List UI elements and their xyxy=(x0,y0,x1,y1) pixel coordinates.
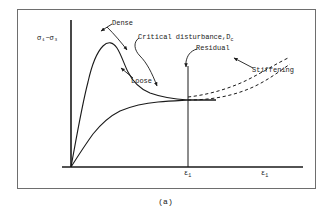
figure-container: σ₁−σ₃ Dense Critical disturbance,Dc Resi… xyxy=(0,0,331,218)
x-axis-subscript: 1 xyxy=(265,173,268,179)
figure-caption: (a) xyxy=(0,197,331,206)
x-tick-label-critical-strain: ε1 xyxy=(184,170,191,179)
y-axis-label: σ₁−σ₃ xyxy=(37,35,58,42)
annotation-critical-disturbance: Critical disturbance,Dc xyxy=(138,34,233,43)
critical-disturbance-subscript: c xyxy=(230,37,233,43)
x-tick-subscript: 1 xyxy=(188,173,191,179)
annotation-residual: Residual xyxy=(196,45,230,52)
annotation-dense: Dense xyxy=(112,20,133,27)
annotation-loose: Loose xyxy=(131,78,152,85)
x-axis-label: ε1 xyxy=(261,170,268,179)
annotation-stiffening: Stiffening xyxy=(252,67,294,74)
